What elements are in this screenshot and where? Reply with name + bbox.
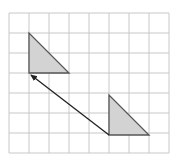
translation-arrow <box>31 75 109 135</box>
translation-diagram <box>0 0 172 160</box>
